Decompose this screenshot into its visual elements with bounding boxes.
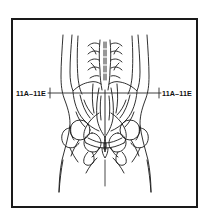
reference-label-right: 11A–11E [162,89,192,98]
figure-frame-border [11,18,198,208]
reference-label-left: 11A–11E [16,89,46,98]
figure-page: 11A–11E 11A–11E [0,0,210,224]
